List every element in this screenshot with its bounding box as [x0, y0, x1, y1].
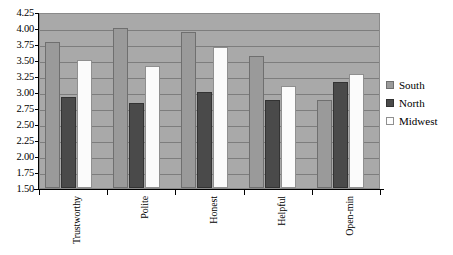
y-axis-tick-label: 3.25: [16, 72, 34, 82]
y-axis-tick-label: 3.75: [16, 40, 34, 50]
legend-item-midwest[interactable]: Midwest: [386, 113, 453, 129]
x-axis-tick-mark: [107, 190, 108, 195]
x-axis-tick-mark: [312, 190, 313, 195]
x-axis-tick-mark: [175, 190, 176, 195]
bar-south-honest: [181, 32, 196, 188]
legend-item-label: Midwest: [399, 116, 438, 127]
x-axis-category-label: Open-min: [344, 196, 355, 236]
y-axis-tick-label: 3.00: [16, 88, 34, 98]
bar-midwest-trustworthy: [77, 60, 92, 188]
x-axis-tick-mark: [244, 190, 245, 195]
x-axis-category-label: Honest: [208, 196, 219, 224]
bar-north-polite: [129, 103, 144, 188]
x-axis-tick-mark: [380, 190, 381, 195]
chart-title: [120, 0, 340, 2]
bar-midwest-helpful: [281, 86, 296, 188]
bar-midwest-open-min: [349, 74, 364, 188]
bar-midwest-honest: [213, 47, 228, 188]
legend-item-north[interactable]: North: [386, 95, 453, 111]
chart-legend: SouthNorthMidwest: [386, 77, 453, 131]
bar-chart: 4.254.003.753.503.253.002.752.502.252.00…: [0, 0, 453, 255]
bar-south-open-min: [317, 100, 332, 188]
y-axis-line: [38, 13, 39, 190]
x-axis-category-label: Polite: [139, 196, 150, 219]
south-swatch-icon: [386, 81, 394, 89]
y-axis-tick-label: 4.00: [16, 24, 34, 34]
x-axis-line: [34, 189, 384, 190]
midwest-swatch-icon: [386, 117, 394, 125]
y-axis-tick-label: 1.75: [16, 168, 34, 178]
y-axis-tick-label: 2.25: [16, 136, 34, 146]
bar-north-honest: [197, 92, 212, 188]
y-axis-tick-label: 1.50: [16, 184, 34, 194]
x-axis-tick-mark: [39, 190, 40, 195]
legend-item-label: North: [399, 98, 425, 109]
bar-north-trustworthy: [61, 97, 76, 188]
y-axis-tick-label: 3.50: [16, 56, 34, 66]
bar-south-trustworthy: [45, 42, 60, 188]
bar-south-helpful: [249, 56, 264, 188]
y-axis: 4.254.003.753.503.253.002.752.502.252.00…: [0, 13, 39, 189]
y-axis-tick-label: 2.75: [16, 104, 34, 114]
legend-item-south[interactable]: South: [386, 77, 453, 93]
y-axis-tick-label: 2.50: [16, 120, 34, 130]
y-axis-tick-label: 4.25: [16, 8, 34, 18]
gridline: [40, 46, 379, 47]
bar-midwest-polite: [145, 66, 160, 188]
bar-north-open-min: [333, 82, 348, 188]
bar-south-polite: [113, 28, 128, 188]
legend-item-label: South: [399, 80, 425, 91]
bar-north-helpful: [265, 100, 280, 188]
x-axis-category-label: Trustworthy: [71, 196, 82, 244]
x-axis-category-label: Helpful: [276, 196, 287, 226]
north-swatch-icon: [386, 99, 394, 107]
y-axis-tick-label: 2.00: [16, 152, 34, 162]
plot-area: [39, 13, 380, 189]
gridline: [40, 30, 379, 31]
